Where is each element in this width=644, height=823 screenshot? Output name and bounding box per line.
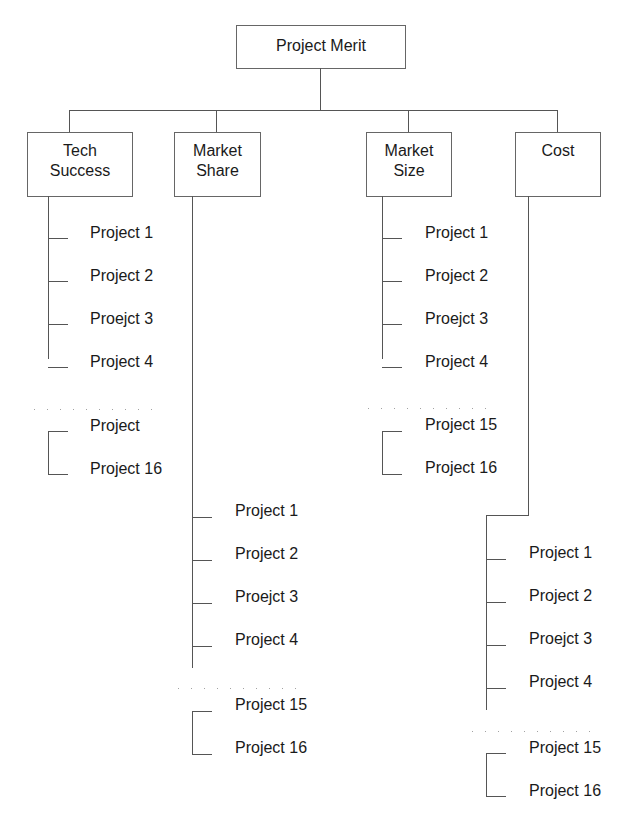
size-tick-1 [382,238,402,239]
tech-item-3: Proejct 3 [90,310,153,328]
size-item-1: Project 1 [425,224,488,242]
share-item-1: Project 1 [235,502,298,520]
share-item-16: Project 16 [235,739,307,757]
size-item-4: Project 4 [425,353,488,371]
connector-drop-share [216,110,217,132]
share-tick-4 [192,646,212,647]
category-node-cost: Cost [515,132,601,197]
connector-root-stem [320,68,321,111]
size-tail-spine [382,431,383,475]
size-item-15: Project 15 [425,416,497,434]
category-label-line1: Tech [28,141,132,161]
cost-tick-4 [486,688,506,689]
tech-tick-2 [48,281,68,282]
size-item-3: Proejct 3 [425,310,488,328]
category-label-line1: Cost [516,141,600,161]
cost-ellipsis-dots [466,731,601,732]
size-tick-15 [382,431,402,432]
category-node-tech-success: Tech Success [27,132,133,197]
cost-item-15: Project 15 [529,739,601,757]
share-tick-1 [192,517,212,518]
tech-tick-16 [48,474,68,475]
size-ellipsis-dots [362,408,497,409]
connector-drop-cost [557,110,558,132]
category-label-line2: Success [28,161,132,181]
cost-item-16: Project 16 [529,782,601,800]
category-label-line1: Market [175,141,260,161]
tech-tick-1 [48,238,68,239]
cost-tick-3 [486,645,506,646]
tech-item-2: Project 2 [90,267,153,285]
root-node-project-merit: Project Merit [236,25,406,69]
cost-stem [528,196,529,516]
size-tick-2 [382,281,402,282]
size-item-2: Project 2 [425,267,488,285]
category-node-market-share: Market Share [174,132,261,197]
share-tick-15 [192,711,212,712]
tech-item-16: Project 16 [90,460,162,478]
tech-list-spine [48,196,49,359]
share-tail-spine [192,711,193,755]
share-tick-3 [192,603,212,604]
share-tick-16 [192,754,212,755]
cost-item-3: Proejct 3 [529,630,592,648]
tech-tick-4 [48,367,68,368]
size-tick-16 [382,474,402,475]
cost-tick-1 [486,559,506,560]
cost-item-2: Project 2 [529,587,592,605]
size-item-16: Project 16 [425,459,497,477]
cost-tick-15 [486,753,506,754]
cost-tick-16 [486,796,506,797]
cost-tail-spine [486,753,487,797]
root-label: Project Merit [276,37,366,54]
cost-item-4: Project 4 [529,673,592,691]
cost-jog [486,515,529,516]
category-label-line2: Share [175,161,260,181]
share-tick-2 [192,560,212,561]
tech-tick-3 [48,324,68,325]
share-ellipsis-dots [172,688,307,689]
tech-item-15: Project [90,417,140,435]
share-item-4: Project 4 [235,631,298,649]
tech-tick-15 [48,431,68,432]
size-list-spine [382,196,383,359]
cost-list-spine [486,515,487,710]
tech-ellipsis-dots [28,409,163,410]
share-item-15: Project 15 [235,696,307,714]
category-label-line1: Market [367,141,451,161]
size-tick-3 [382,324,402,325]
tech-tail-spine [48,431,49,475]
size-tick-4 [382,367,402,368]
cost-tick-2 [486,602,506,603]
share-item-3: Proejct 3 [235,588,298,606]
category-label-line2: Size [367,161,451,181]
share-list-spine [192,196,193,668]
tech-item-1: Project 1 [90,224,153,242]
connector-drop-tech [69,110,70,132]
share-item-2: Project 2 [235,545,298,563]
category-node-market-size: Market Size [366,132,452,197]
cost-item-1: Project 1 [529,544,592,562]
connector-drop-size [408,110,409,132]
connector-bus [69,110,558,111]
tech-item-4: Project 4 [90,353,153,371]
